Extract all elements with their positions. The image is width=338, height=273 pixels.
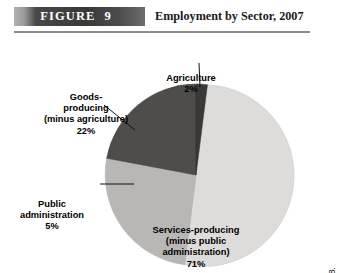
slice-label-services-producing: Services-producing (minus public adminis…: [131, 225, 261, 270]
pie-chart: Agriculture 2% Goods- producing (minus a…: [0, 33, 312, 273]
source-note: SOURCE: Statistics Canada, CANSIM Table …: [327, 267, 337, 273]
page-title: Employment by Sector, 2007: [155, 9, 304, 24]
slice-label-agriculture: Agriculture 2%: [146, 73, 236, 95]
slice-label-goods-producing: Goods- producing (minus agriculture) 22%: [31, 92, 141, 137]
figure-banner: FIGURE 9: [14, 7, 145, 26]
figure-header: FIGURE 9 Employment by Sector, 2007: [14, 7, 310, 26]
slice-label-public-administration: Public administration 5%: [2, 199, 102, 233]
figure-number: 9: [104, 9, 110, 24]
figure-label: FIGURE: [40, 9, 95, 24]
